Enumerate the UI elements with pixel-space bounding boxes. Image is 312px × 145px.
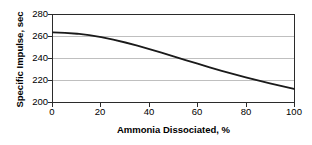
y-tick-label: 260: [22, 31, 48, 41]
chart-container: Specific Impulse, sec 280 260 240 220 20…: [0, 0, 312, 145]
data-curve: [53, 15, 294, 102]
x-axis-title: Ammonia Dissociated, %: [52, 124, 295, 135]
x-tick-label: 100: [279, 106, 309, 117]
x-tick-label: 60: [182, 106, 212, 117]
x-tick-label: 0: [37, 106, 67, 117]
y-tick-label: 280: [22, 9, 48, 19]
plot-area: [52, 14, 295, 103]
y-tick-label: 240: [22, 53, 48, 63]
x-tick-label: 80: [231, 106, 261, 117]
y-tick-label: 220: [22, 75, 48, 85]
y-axis-tick-labels: 280 260 240 220 200: [20, 0, 48, 145]
x-tick-label: 40: [134, 106, 164, 117]
x-tick-label: 20: [85, 106, 115, 117]
